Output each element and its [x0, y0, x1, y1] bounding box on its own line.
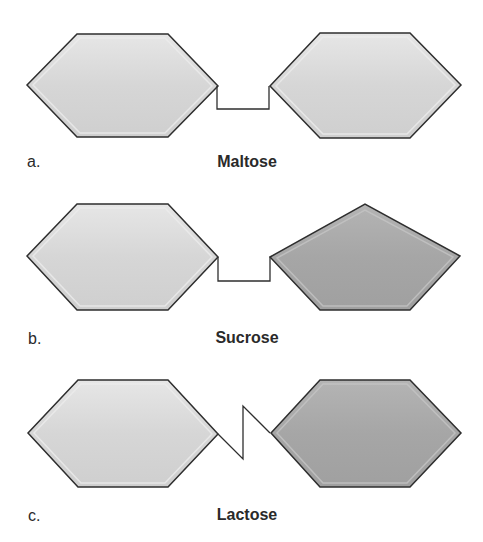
disaccharide-diagram: [0, 0, 483, 542]
glycosidic-bond-zigzag: [218, 406, 270, 459]
glycosidic-bond: [218, 257, 270, 281]
glucose-hexagon-right: [270, 33, 461, 138]
panel-title-sucrose: Sucrose: [187, 330, 307, 346]
glucose-hexagon: [27, 204, 218, 310]
glycosidic-bond: [217, 86, 269, 109]
panel-letter-a: a.: [27, 154, 40, 170]
panel-sucrose: [27, 204, 460, 310]
glucose-hexagon: [28, 380, 218, 487]
glucose-hexagon-left: [27, 34, 218, 137]
galactose-hexagon: [271, 380, 461, 487]
fructose-pentagon: [270, 204, 460, 310]
panel-lactose: [28, 380, 461, 487]
panel-maltose: [27, 33, 461, 138]
panel-letter-b: b.: [28, 331, 41, 347]
panel-title-maltose: Maltose: [187, 154, 307, 170]
panel-letter-c: c.: [28, 508, 40, 524]
panel-title-lactose: Lactose: [187, 507, 307, 523]
